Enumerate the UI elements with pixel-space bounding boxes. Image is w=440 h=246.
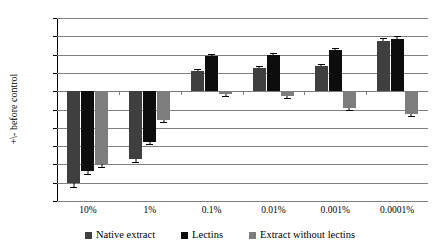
x-axis-tick-mark: [181, 91, 182, 95]
error-bar-cap: [84, 174, 91, 175]
gridline: [57, 110, 428, 111]
error-bar-cap: [380, 38, 387, 39]
x-axis-category-label: 10%: [53, 205, 123, 216]
legend-swatch-icon: [181, 232, 188, 239]
gridline: [57, 128, 428, 129]
bar: [405, 91, 418, 114]
bar: [315, 66, 328, 92]
bar: [95, 91, 108, 164]
error-bar-cap: [222, 96, 229, 97]
error-bar-cap: [70, 187, 77, 188]
error-bar-cap: [270, 53, 277, 54]
legend-item: Extract without lectins: [249, 229, 355, 241]
bar: [343, 91, 356, 107]
x-axis-tick-mark: [243, 91, 244, 95]
gridline: [57, 164, 428, 165]
bar-chart: +\- before control 806040200-20-40-60-80…: [0, 0, 440, 246]
bar: [191, 71, 204, 91]
bar: [267, 55, 280, 92]
legend-label: Native extract: [96, 229, 155, 241]
gridline: [57, 146, 428, 147]
legend-swatch-icon: [249, 232, 256, 239]
bar: [67, 91, 80, 183]
x-axis-category-label: 0.001%: [300, 205, 370, 216]
gridline: [57, 73, 428, 74]
error-bar-cap: [194, 69, 201, 70]
bar: [253, 68, 266, 91]
error-bar-cap: [394, 36, 401, 37]
bar: [157, 91, 170, 119]
legend-item: Native extract: [85, 229, 155, 241]
error-bar-cap: [318, 64, 325, 65]
error-bar-cap: [160, 122, 167, 123]
gridline: [57, 183, 428, 184]
error-bar-cap: [146, 144, 153, 145]
error-bar-cap: [98, 167, 105, 168]
gridline: [57, 18, 428, 19]
bar: [143, 91, 156, 142]
x-axis-tick-mark: [119, 91, 120, 95]
gridline: [57, 36, 428, 37]
legend-swatch-icon: [85, 232, 92, 239]
x-axis-tick-mark: [304, 91, 305, 95]
gridline: [57, 201, 428, 202]
bar: [129, 91, 142, 159]
legend-label: Extract without lectins: [260, 229, 355, 241]
error-bar-cap: [408, 116, 415, 117]
x-axis-category-label: 1%: [115, 205, 185, 216]
x-axis-category-label: 0.1%: [177, 205, 247, 216]
bar: [391, 39, 404, 91]
bar: [81, 91, 94, 171]
error-bar-cap: [256, 66, 263, 67]
error-bar-cap: [132, 162, 139, 163]
x-axis-tick-mark: [366, 91, 367, 95]
chart-legend: Native extractLectinsExtract without lec…: [0, 227, 440, 243]
x-axis-category-label: 0.0001%: [362, 205, 432, 216]
gridline: [57, 55, 428, 56]
x-axis-category-label: 0.01%: [238, 205, 308, 216]
error-bar-cap: [208, 54, 215, 55]
error-bar-cap: [284, 98, 291, 99]
error-bar-cap: [332, 48, 339, 49]
bar: [377, 41, 390, 91]
bar: [329, 50, 342, 91]
legend-item: Lectins: [181, 229, 223, 241]
legend-label: Lectins: [192, 229, 223, 241]
bar: [205, 56, 218, 92]
y-axis-title: +\- before control: [7, 44, 21, 174]
plot-area: [57, 18, 428, 201]
error-bar-cap: [346, 110, 353, 111]
